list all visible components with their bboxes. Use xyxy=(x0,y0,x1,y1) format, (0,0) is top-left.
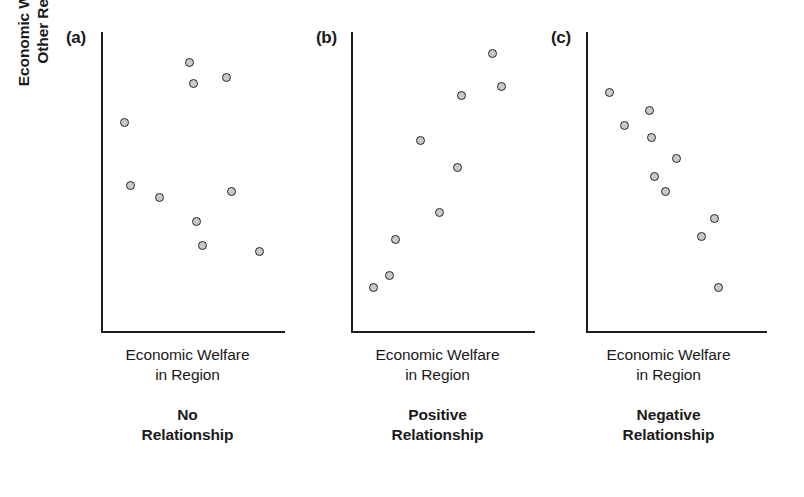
data-point xyxy=(672,154,681,163)
panel-b-points xyxy=(351,32,535,333)
data-point xyxy=(620,121,629,130)
panel-c-x-label-line-1: Economic Welfare xyxy=(561,345,776,365)
data-point xyxy=(416,136,425,145)
data-point xyxy=(714,283,723,292)
data-point xyxy=(710,214,719,223)
panel-a-x-label-line-2: in Region xyxy=(80,365,295,385)
panel-c: (c) Economic Welfare in Region Negative … xyxy=(545,0,785,497)
data-point xyxy=(126,181,135,190)
data-point xyxy=(189,79,198,88)
data-point xyxy=(120,118,129,127)
panel-a-tag: (a) xyxy=(66,28,86,48)
data-point xyxy=(647,133,656,142)
data-point xyxy=(650,172,659,181)
panel-a-caption-line-2: Relationship xyxy=(80,425,295,445)
data-point xyxy=(255,247,264,256)
figure-container: Economic Welfare in Other Regions (a) Ec… xyxy=(0,0,804,497)
data-point xyxy=(497,82,506,91)
panel-a-caption-line-1: No xyxy=(80,405,295,425)
panel-a-x-axis-label: Economic Welfare in Region xyxy=(80,345,295,385)
data-point xyxy=(155,193,164,202)
data-point xyxy=(661,187,670,196)
panel-b-tag: (b) xyxy=(316,28,337,48)
data-point xyxy=(227,187,236,196)
panel-b-x-axis-label: Economic Welfare in Region xyxy=(330,345,545,385)
panel-c-caption-line-1: Negative xyxy=(561,405,776,425)
panel-a-points xyxy=(101,32,285,333)
panel-b-x-label-line-2: in Region xyxy=(330,365,545,385)
panel-a-x-label-line-1: Economic Welfare xyxy=(80,345,295,365)
panel-b-caption-line-1: Positive xyxy=(330,405,545,425)
data-point xyxy=(457,91,466,100)
data-point xyxy=(391,235,400,244)
data-point xyxy=(488,49,497,58)
panel-c-caption-line-2: Relationship xyxy=(561,425,776,445)
data-point xyxy=(192,217,201,226)
shared-y-axis-label: Economic Welfare in Other Regions xyxy=(6,0,62,126)
panel-a-plot-area xyxy=(101,32,285,333)
panel-a-caption: No Relationship xyxy=(80,405,295,445)
data-point xyxy=(453,163,462,172)
panel-c-points xyxy=(586,32,767,333)
panel-b-plot-area xyxy=(351,32,535,333)
data-point xyxy=(645,106,654,115)
panel-b-x-label-line-1: Economic Welfare xyxy=(330,345,545,365)
panel-c-caption: Negative Relationship xyxy=(561,405,776,445)
panel-c-x-axis-label: Economic Welfare in Region xyxy=(561,345,776,385)
data-point xyxy=(605,88,614,97)
panel-c-plot-area xyxy=(586,32,767,333)
data-point xyxy=(697,232,706,241)
data-point xyxy=(435,208,444,217)
data-point xyxy=(385,271,394,280)
panel-c-tag: (c) xyxy=(551,28,571,48)
data-point xyxy=(222,73,231,82)
data-point xyxy=(185,58,194,67)
panel-b-caption-line-2: Relationship xyxy=(330,425,545,445)
panel-c-x-label-line-2: in Region xyxy=(561,365,776,385)
data-point xyxy=(369,283,378,292)
panel-b-caption: Positive Relationship xyxy=(330,405,545,445)
panel-b: (b) Economic Welfare in Region Positive … xyxy=(310,0,545,497)
y-axis-label-line-2: Other Regions xyxy=(34,0,53,64)
panel-a: (a) Economic Welfare in Region No Relati… xyxy=(60,0,295,497)
y-axis-label-line-1: Economic Welfare in xyxy=(15,0,34,86)
data-point xyxy=(198,241,207,250)
